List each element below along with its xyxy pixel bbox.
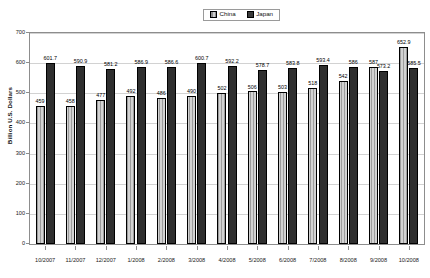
y-axis-tick-mark: [26, 213, 29, 214]
bar-group: 542586: [333, 33, 363, 244]
x-axis-tick-mark: [166, 246, 167, 250]
china-swatch-icon: [210, 11, 217, 18]
x-axis-tick-label: 10/2007: [30, 257, 60, 263]
bar-china: [36, 106, 45, 244]
legend-label-japan: Japan: [256, 11, 273, 17]
bar-group: 652.9585.5: [394, 33, 424, 244]
bar-value-label: 585.5: [403, 61, 425, 66]
bar-japan: [258, 70, 267, 244]
x-axis-tick-label: 6/2008: [273, 257, 303, 263]
y-axis-tick-label: 100: [3, 210, 25, 216]
x-axis-tick-mark: [45, 246, 46, 250]
x-axis-tick-mark: [288, 246, 289, 250]
x-axis-tick-mark: [136, 246, 137, 250]
x-axis-tick-label: 9/2008: [364, 257, 394, 263]
x-axis-tick-label: 10/2008: [394, 257, 424, 263]
y-axis-tick-mark: [26, 243, 29, 244]
bar-series-container: 459601.7458590.9477581.2492586.9486586.6…: [30, 33, 424, 244]
y-axis-tick-mark: [26, 122, 29, 123]
bar-value-label: 593.4: [312, 58, 334, 63]
y-axis-tick-label: 300: [3, 150, 25, 156]
chart-legend: China Japan: [203, 9, 280, 21]
y-axis-tick-mark: [26, 62, 29, 63]
y-axis-tick-label: 600: [3, 59, 25, 65]
x-axis-tick-label: 7/2008: [303, 257, 333, 263]
x-axis-tick-label: 11/2007: [60, 257, 90, 263]
bar-japan: [76, 66, 85, 244]
bar-group: 490600.7: [182, 33, 212, 244]
bar-value-label: 590.9: [70, 59, 92, 64]
bar-value-label: 600.7: [191, 56, 213, 61]
bar-value-label: 578.7: [251, 63, 273, 68]
bar-china: [308, 88, 317, 244]
x-axis-tick-label: 2/2008: [151, 257, 181, 263]
x-axis-tick-mark: [348, 246, 349, 250]
y-axis-tick-label: 0: [3, 240, 25, 246]
bar-group: 502592.2: [212, 33, 242, 244]
bar-japan: [228, 66, 237, 245]
bar-chart: China Japan Billion U.S. Dollars 0100200…: [0, 0, 430, 278]
bar-group: 587573.2: [363, 33, 393, 244]
bar-value-label: 581.2: [100, 62, 122, 67]
y-axis-tick-mark: [26, 92, 29, 93]
bar-china: [339, 81, 348, 244]
x-axis-tick-mark: [75, 246, 76, 250]
y-axis-tick-mark: [26, 153, 29, 154]
legend-item-japan: Japan: [247, 11, 273, 18]
x-axis-tick-mark: [197, 246, 198, 250]
bar-value-label: 586.9: [130, 60, 152, 65]
y-axis-tick-label: 500: [3, 89, 25, 95]
bar-china: [157, 98, 166, 244]
y-axis-tick-mark: [26, 32, 29, 33]
bar-group: 518593.4: [303, 33, 333, 244]
bar-china: [66, 106, 75, 244]
bar-japan: [46, 63, 55, 244]
bar-japan: [319, 65, 328, 244]
bar-value-label: 573.2: [373, 64, 395, 69]
x-axis-tick-mark: [106, 246, 107, 250]
bar-china: [369, 67, 378, 244]
y-axis-tick-label: 200: [3, 180, 25, 186]
bar-japan: [106, 69, 115, 244]
x-axis-tick-mark: [409, 246, 410, 250]
x-axis-tick-mark: [318, 246, 319, 250]
x-axis-tick-label: 8/2008: [333, 257, 363, 263]
x-axis-tick-label: 3/2008: [182, 257, 212, 263]
x-axis-tick-label: 1/2008: [121, 257, 151, 263]
bar-japan: [379, 71, 388, 244]
bar-value-label: 592.2: [221, 59, 243, 64]
bar-china: [96, 100, 105, 244]
legend-label-china: China: [220, 11, 236, 17]
bar-group: 459601.7: [30, 33, 60, 244]
bar-value-label: 586: [342, 60, 364, 65]
bar-china: [187, 96, 196, 244]
bar-china: [126, 96, 135, 244]
bar-japan: [197, 63, 206, 244]
bar-japan: [349, 67, 358, 244]
bar-japan: [409, 68, 418, 244]
bar-group: 458590.9: [60, 33, 90, 244]
bar-group: 477581.2: [91, 33, 121, 244]
bar-china: [248, 91, 257, 244]
y-axis-tick-mark: [26, 183, 29, 184]
bar-group: 492586.9: [121, 33, 151, 244]
x-axis-tick-label: 5/2008: [242, 257, 272, 263]
bar-group: 486586.6: [151, 33, 181, 244]
bar-china: [278, 92, 287, 244]
bar-china: [217, 93, 226, 244]
x-axis: 10/200711/200712/20071/20082/20083/20084…: [30, 246, 424, 276]
x-axis-tick-mark: [257, 246, 258, 250]
bar-value-label: 652.9: [393, 40, 415, 45]
bar-japan: [288, 68, 297, 244]
bar-japan: [137, 67, 146, 244]
legend-item-china: China: [210, 11, 236, 18]
bar-value-label: 601.7: [39, 56, 61, 61]
bar-japan: [167, 67, 176, 244]
y-axis-tick-label: 700: [3, 29, 25, 35]
japan-swatch-icon: [247, 11, 254, 18]
bar-value-label: 586.6: [160, 60, 182, 65]
x-axis-tick-mark: [227, 246, 228, 250]
y-axis-tick-label: 400: [3, 119, 25, 125]
bar-group: 503583.8: [272, 33, 302, 244]
bar-china: [399, 47, 408, 244]
